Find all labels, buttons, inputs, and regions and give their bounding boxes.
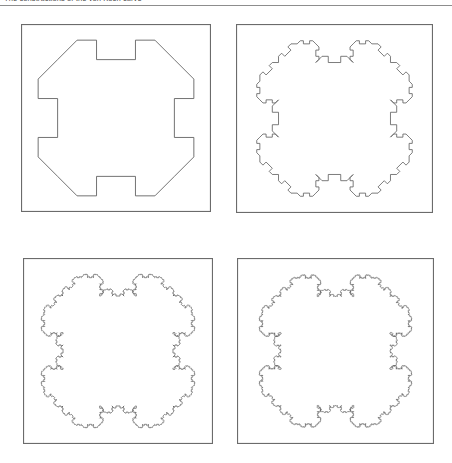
fractal-figure-grid	[0, 0, 452, 463]
panel-border	[237, 25, 433, 213]
fractal-curve-iteration-2	[257, 41, 413, 197]
panel-iteration-4	[237, 258, 434, 444]
fractal-curve-iteration-3	[41, 274, 195, 428]
panel-iteration-3	[23, 258, 213, 444]
panel-iteration-1	[21, 24, 211, 212]
panel-border	[238, 259, 434, 444]
panel-iteration-2	[236, 24, 433, 213]
panel-border	[24, 259, 213, 444]
fractal-curve-iteration-4	[259, 275, 412, 428]
panel-border	[22, 25, 211, 212]
fractal-curve-iteration-1	[38, 40, 194, 196]
